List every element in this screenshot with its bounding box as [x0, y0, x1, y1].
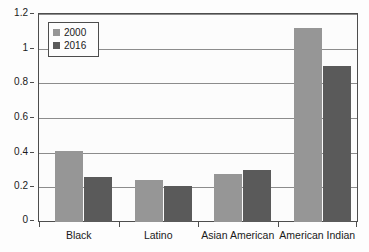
- legend-item-2000[interactable]: 2000: [53, 26, 94, 39]
- x-tick-label-black: Black: [66, 229, 92, 242]
- bar-asian-american-2016[interactable]: [243, 170, 271, 222]
- y-tick-mark-0.8: [30, 82, 34, 83]
- x-axis: Black Latino Asian American American Ind…: [39, 229, 357, 247]
- bar-group-american-indian: [278, 14, 358, 222]
- bar-american-indian-2000[interactable]: [294, 28, 322, 222]
- bar-american-indian-2016[interactable]: [323, 66, 351, 222]
- legend-label-2000: 2000: [64, 27, 86, 38]
- x-tick-label-american-indian: American Indian: [279, 229, 355, 242]
- x-axis-ticks: [39, 222, 357, 228]
- y-tick-label-0.6: 0.6: [14, 112, 28, 122]
- legend: 2000 2016: [48, 22, 99, 57]
- x-tick-mark-0: [39, 222, 40, 227]
- x-tick-mark-3: [278, 222, 279, 227]
- bar-asian-american-2000[interactable]: [214, 174, 242, 222]
- y-tick-mark-1: [30, 48, 34, 49]
- y-tick-label-1.2: 1.2: [14, 8, 28, 18]
- y-tick-mark-0.6: [30, 117, 34, 118]
- y-tick-label-0.4: 0.4: [14, 147, 28, 157]
- bar-black-2016[interactable]: [84, 177, 112, 222]
- legend-label-2016: 2016: [64, 40, 86, 51]
- y-tick-mark-1.2: [30, 13, 34, 14]
- y-axis: 1.2 1 0.8 0.6 0.4 0.2 0: [0, 13, 34, 222]
- x-tick-mark-1: [119, 222, 120, 227]
- legend-swatch-icon-2000: [53, 29, 60, 36]
- y-tick-label-0.2: 0.2: [14, 181, 28, 191]
- y-tick-mark-0.4: [30, 152, 34, 153]
- y-tick-label-1: 1: [22, 43, 28, 53]
- legend-item-2016[interactable]: 2016: [53, 39, 94, 52]
- y-tick-label-0: 0: [22, 215, 28, 225]
- y-tick-mark-0.2: [30, 186, 34, 187]
- bar-latino-2000[interactable]: [135, 180, 163, 222]
- bar-latino-2016[interactable]: [164, 186, 192, 222]
- bar-chart-figure: 1.2 1 0.8 0.6 0.4 0.2 0: [0, 0, 369, 252]
- bar-black-2000[interactable]: [55, 151, 83, 222]
- y-tick-label-0.8: 0.8: [14, 77, 28, 87]
- legend-swatch-icon-2016: [53, 42, 60, 49]
- y-tick-mark-0: [30, 220, 34, 221]
- x-tick-mark-2: [198, 222, 199, 227]
- x-tick-mark-4: [356, 222, 357, 227]
- x-tick-label-latino: Latino: [144, 229, 173, 242]
- bar-group-latino: [119, 14, 199, 222]
- bar-group-asian-american: [198, 14, 278, 222]
- x-tick-label-asian-american: Asian American: [201, 229, 274, 242]
